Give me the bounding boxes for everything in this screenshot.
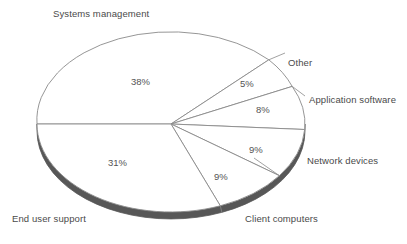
pie-chart-figure: Systems management Other Application sof… (0, 0, 407, 244)
label-network-devices: Network devices (307, 155, 378, 166)
value-application-software: 8% (256, 104, 270, 115)
label-application-software: Application software (309, 94, 396, 105)
label-client-computers: Client computers (245, 213, 318, 224)
label-end-user-support: End user support (12, 213, 86, 224)
value-network-devices: 9% (249, 144, 263, 155)
value-other: 5% (240, 78, 254, 89)
value-systems-management: 38% (131, 76, 150, 87)
pie-slices (37, 32, 305, 212)
pie-chart-graphic (0, 0, 407, 244)
leader-line-other (269, 53, 285, 60)
value-client-computers: 9% (214, 171, 228, 182)
value-end-user-support: 31% (108, 157, 127, 168)
label-systems-management: Systems management (53, 8, 149, 19)
label-other: Other (288, 57, 312, 68)
